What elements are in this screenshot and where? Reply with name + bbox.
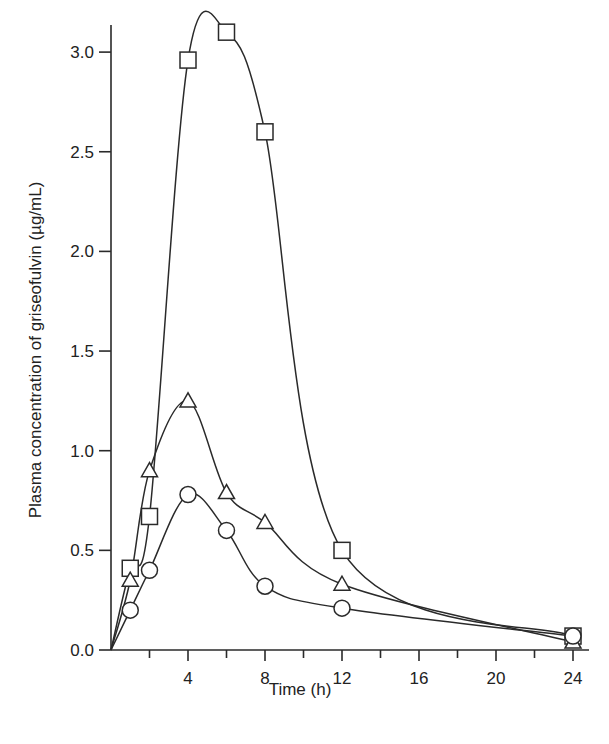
x-tick-label: 16	[410, 669, 429, 688]
y-tick-label: 0.0	[70, 641, 94, 660]
y-axis-title: Plasma concentration of griseofulvin (µg…	[26, 182, 45, 519]
y-axis: 0.00.51.01.52.02.53.0	[70, 25, 111, 660]
data-markers	[122, 24, 581, 648]
x-tick-label: 24	[564, 669, 583, 688]
circle-marker	[142, 562, 158, 578]
circle-marker	[257, 578, 273, 594]
y-tick-label: 1.0	[70, 442, 94, 461]
triangle-marker	[180, 393, 196, 407]
x-axis-title: Time (h)	[269, 680, 332, 699]
x-tick-label: 20	[487, 669, 506, 688]
circle-marker	[334, 600, 350, 616]
square-marker	[142, 508, 158, 524]
square-marker	[257, 124, 273, 140]
y-tick-label: 3.0	[70, 43, 94, 62]
x-tick-label: 4	[183, 669, 192, 688]
circle-marker	[122, 602, 138, 618]
triangle-marker	[257, 514, 273, 528]
y-tick-label: 2.5	[70, 143, 94, 162]
y-tick-label: 1.5	[70, 342, 94, 361]
square-marker	[219, 24, 235, 40]
circle-marker	[219, 522, 235, 538]
y-tick-label: 0.5	[70, 541, 94, 560]
square-marker	[334, 542, 350, 558]
x-axis: 4812162024	[111, 650, 589, 688]
triangle-marker	[219, 485, 235, 499]
square-marker	[180, 52, 196, 68]
x-tick-label: 12	[333, 669, 352, 688]
circle-marker	[180, 487, 196, 503]
circle-marker	[565, 628, 581, 644]
triangle-marker	[334, 576, 350, 590]
triangle-marker	[142, 463, 158, 477]
pharmacokinetic-line-chart: 0.00.51.01.52.02.53.0 4812162024 Time (h…	[0, 0, 609, 744]
y-tick-label: 2.0	[70, 242, 94, 261]
